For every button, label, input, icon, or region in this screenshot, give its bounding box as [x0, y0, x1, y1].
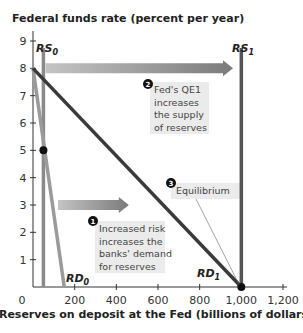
- y-tick-label: 3: [20, 199, 27, 212]
- x-tick-label: 0: [19, 294, 26, 307]
- x-tick-label: 200: [64, 294, 85, 307]
- demand-shift-arrow: [58, 197, 129, 213]
- y-axis-label: Federal funds rate (percent per year): [12, 12, 244, 25]
- annotation-text-2: increases: [154, 97, 199, 108]
- annotation-number-2: 2: [146, 81, 151, 89]
- new-equilibrium-point: [237, 283, 245, 291]
- x-tick-label: 1,000: [226, 294, 258, 307]
- annotation-text-1: for reserves: [99, 261, 156, 272]
- y-tick-label: 6: [20, 117, 27, 130]
- y-tick-label: 8: [20, 62, 27, 75]
- annotation-text-3: Equilibrium: [176, 185, 230, 196]
- rs1-label: RS1: [232, 42, 254, 57]
- y-tick-label: 2: [20, 226, 27, 239]
- rd0-label: RD0: [66, 272, 90, 287]
- annotation-text-1: Increased risk: [99, 223, 166, 234]
- x-axis-label: Reserves on deposit at the Fed (billions…: [0, 308, 303, 321]
- x-tick-label: 800: [189, 294, 210, 307]
- annotation-text-2: of reserves: [154, 122, 207, 133]
- y-tick-label: 7: [20, 90, 27, 103]
- annotation-number-1: 1: [91, 218, 96, 226]
- rd0-curve: [33, 68, 64, 287]
- y-tick-label: 4: [20, 172, 27, 185]
- supply-shift-arrow: [46, 60, 234, 76]
- annotation-number-3: 3: [169, 180, 174, 188]
- annotation-text-2: Fed's QE1: [154, 84, 201, 95]
- rd1-label: RD1: [197, 267, 220, 282]
- y-tick-label: 9: [20, 35, 27, 48]
- chart: Federal funds rate (percent per year) Re…: [0, 0, 303, 333]
- x-tick-label: 600: [148, 294, 169, 307]
- rs0-label: RS0: [36, 42, 58, 57]
- y-tick-label: 5: [20, 144, 27, 157]
- x-tick-label: 400: [106, 294, 127, 307]
- annotation-text-2: the supply: [154, 109, 204, 120]
- initial-equilibrium-point: [39, 146, 47, 154]
- annotation-text-1: banks' demand: [99, 248, 172, 259]
- x-tick-label: 1,200: [267, 294, 299, 307]
- y-tick-label: 1: [20, 254, 27, 267]
- annotation-text-1: increases the: [99, 236, 163, 247]
